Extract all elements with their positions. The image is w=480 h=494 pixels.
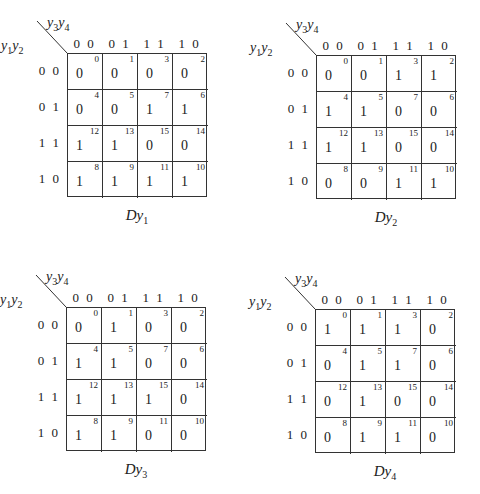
kmap-cell: 00 bbox=[67, 308, 102, 344]
kmap-cell: 60 bbox=[421, 346, 456, 382]
row-label: 1 0 bbox=[277, 417, 309, 453]
row-label: 0 0 bbox=[277, 309, 309, 345]
cell-value: 0 bbox=[75, 320, 82, 336]
cell-minterm-index: 13 bbox=[125, 126, 134, 136]
kmap-cell: 11 bbox=[351, 310, 386, 346]
column-label: 1 1 bbox=[386, 38, 421, 54]
column-header-labels: 0 00 11 11 0 bbox=[66, 290, 206, 306]
cell-minterm-index: 6 bbox=[200, 344, 205, 354]
cell-minterm-index: 6 bbox=[450, 92, 455, 102]
column-header-labels: 0 00 11 11 0 bbox=[67, 36, 207, 52]
kmap-cell: 11 bbox=[102, 308, 137, 344]
cell-value: 0 bbox=[394, 394, 401, 410]
kmap-cell: 81 bbox=[67, 416, 102, 452]
row-label: 0 1 bbox=[29, 89, 61, 125]
kmap-cell: 80 bbox=[316, 418, 351, 454]
kmap-cell: 131 bbox=[351, 382, 386, 418]
cell-value: 0 bbox=[395, 140, 402, 156]
cell-minterm-index: 4 bbox=[94, 344, 99, 354]
cell-minterm-index: 0 bbox=[343, 310, 348, 320]
cell-value: 1 bbox=[394, 322, 401, 338]
cell-minterm-index: 11 bbox=[159, 416, 168, 426]
kmap-cell: 131 bbox=[102, 380, 137, 416]
cell-minterm-index: 4 bbox=[343, 346, 348, 356]
cell-value: 0 bbox=[181, 138, 188, 154]
kmap-cell: 90 bbox=[352, 164, 387, 200]
kmap-cell: 31 bbox=[387, 56, 422, 92]
row-label: 1 0 bbox=[278, 163, 310, 199]
kmap-cell: 30 bbox=[137, 308, 172, 344]
cell-value: 0 bbox=[429, 394, 436, 410]
column-variables-label: y3y4 bbox=[46, 269, 68, 287]
kmap-cell: 80 bbox=[317, 164, 352, 200]
map-caption: Dy1 bbox=[67, 207, 207, 226]
column-variables-label: y3y4 bbox=[296, 17, 318, 35]
cell-value: 1 bbox=[360, 140, 367, 156]
kmap-cell: 61 bbox=[173, 90, 208, 126]
kmap-cell: 81 bbox=[68, 162, 103, 198]
cell-minterm-index: 0 bbox=[94, 308, 99, 318]
kmap-cell: 51 bbox=[102, 344, 137, 380]
column-label: 1 1 bbox=[136, 290, 171, 306]
kmap-cell: 50 bbox=[103, 90, 138, 126]
column-label: 0 1 bbox=[351, 38, 386, 54]
cell-minterm-index: 1 bbox=[378, 310, 383, 320]
kmap-cell: 140 bbox=[422, 128, 457, 164]
kmap-cell: 150 bbox=[387, 128, 422, 164]
cell-minterm-index: 11 bbox=[408, 418, 417, 428]
cell-minterm-index: 8 bbox=[343, 418, 348, 428]
kmap-cell: 10 bbox=[352, 56, 387, 92]
cell-minterm-index: 15 bbox=[408, 382, 417, 392]
kmap-cell: 70 bbox=[137, 344, 172, 380]
column-label: 0 0 bbox=[316, 38, 351, 54]
cell-minterm-index: 3 bbox=[164, 308, 169, 318]
kmap-cell: 101 bbox=[173, 162, 208, 198]
row-label: 1 0 bbox=[29, 161, 61, 197]
column-header-labels: 0 00 11 11 0 bbox=[315, 292, 455, 308]
row-label: 0 1 bbox=[278, 91, 310, 127]
cell-value: 0 bbox=[145, 428, 152, 444]
cell-value: 1 bbox=[181, 102, 188, 118]
cell-value: 1 bbox=[110, 356, 117, 372]
karnaugh-map-3: y3y4y1y20 00 11 11 00 00 11 11 000113020… bbox=[66, 307, 306, 494]
kmap-cell: 70 bbox=[387, 92, 422, 128]
cell-value: 1 bbox=[394, 430, 401, 446]
kmap-cell: 140 bbox=[421, 382, 456, 418]
cell-value: 1 bbox=[75, 392, 82, 408]
cell-minterm-index: 13 bbox=[374, 128, 383, 138]
kmap-cell: 51 bbox=[351, 346, 386, 382]
cell-value: 0 bbox=[360, 68, 367, 84]
cell-minterm-index: 2 bbox=[449, 310, 454, 320]
row-header-labels: 0 00 11 11 0 bbox=[29, 53, 61, 197]
kmap-cell: 30 bbox=[138, 54, 173, 90]
cell-minterm-index: 2 bbox=[201, 54, 206, 64]
cell-value: 1 bbox=[430, 176, 437, 192]
cell-minterm-index: 15 bbox=[160, 126, 169, 136]
cell-minterm-index: 14 bbox=[445, 128, 454, 138]
kmap-cell: 10 bbox=[103, 54, 138, 90]
cell-minterm-index: 12 bbox=[338, 382, 347, 392]
map-caption: Dy3 bbox=[66, 461, 206, 480]
column-label: 1 0 bbox=[421, 38, 456, 54]
cell-minterm-index: 7 bbox=[165, 90, 170, 100]
cell-value: 0 bbox=[180, 392, 187, 408]
cell-value: 0 bbox=[111, 102, 118, 118]
cell-minterm-index: 1 bbox=[129, 308, 134, 318]
kmap-cell: 51 bbox=[352, 92, 387, 128]
column-header-labels: 0 00 11 11 0 bbox=[316, 38, 456, 54]
cell-minterm-index: 6 bbox=[201, 90, 206, 100]
cell-minterm-index: 10 bbox=[445, 164, 454, 174]
cell-value: 0 bbox=[76, 102, 83, 118]
cell-value: 1 bbox=[325, 104, 332, 120]
kmap-cell: 41 bbox=[67, 344, 102, 380]
cell-minterm-index: 9 bbox=[378, 418, 383, 428]
cell-value: 1 bbox=[181, 174, 188, 190]
cell-value: 1 bbox=[76, 174, 83, 190]
cell-value: 0 bbox=[429, 358, 436, 374]
kmap-grid: 00103020405071611211311501408191111101 bbox=[67, 53, 207, 197]
cell-value: 0 bbox=[181, 66, 188, 82]
cell-minterm-index: 10 bbox=[196, 162, 205, 172]
column-label: 0 1 bbox=[101, 290, 136, 306]
column-variables-label: y3y4 bbox=[295, 271, 317, 289]
kmap-cell: 91 bbox=[351, 418, 386, 454]
